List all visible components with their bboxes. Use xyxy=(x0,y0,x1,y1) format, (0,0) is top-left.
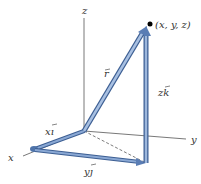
x-axis-label: x xyxy=(8,152,14,163)
yj-vector-label: yȷ xyxy=(83,166,93,177)
point-xyz xyxy=(148,22,153,27)
z-axis-label: z xyxy=(81,5,88,16)
xi-arrow-accent-icon xyxy=(52,124,57,125)
vector-r xyxy=(84,26,147,131)
y-axis xyxy=(84,131,186,139)
vector-zk xyxy=(141,26,151,163)
vector-yj xyxy=(35,150,146,166)
y-axis-label: y xyxy=(190,134,197,145)
vector-diagram: z y x (x, y, z) r zk xı yȷ xyxy=(0,0,201,184)
zk-vector-label: zk xyxy=(157,87,169,98)
xi-vector-label: xı xyxy=(45,126,54,137)
yj-arrow-accent-icon xyxy=(91,164,96,165)
point-label: (x, y, z) xyxy=(155,19,191,30)
